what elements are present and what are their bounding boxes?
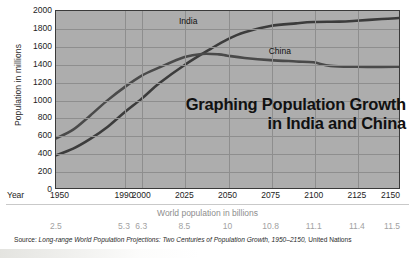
y-tick-label: 600	[22, 131, 52, 140]
horizontal-gridline	[56, 172, 399, 173]
y-axis-tick-labels: 2000180016001400120010008006004002000	[18, 0, 52, 200]
vertical-gridline	[142, 11, 143, 188]
x-tick-label: 2000	[132, 190, 151, 200]
source-publisher: United Nations	[308, 236, 351, 243]
y-tick-label: 200	[22, 167, 52, 176]
horizontal-gridline	[56, 136, 399, 137]
horizontal-gridline	[56, 83, 399, 84]
x-axis-title: Year	[7, 190, 24, 200]
world-population-tick-label: 10.8	[262, 221, 279, 231]
x-tick-label: 2125	[347, 190, 366, 200]
horizontal-gridline	[56, 65, 399, 66]
secondary-axis-title: World population in billions	[0, 208, 415, 218]
y-tick-label: 1000	[22, 96, 52, 105]
series-label-india: India	[179, 16, 197, 26]
y-tick-label: 1600	[22, 42, 52, 51]
y-tick-label: 1400	[22, 60, 52, 69]
vertical-gridline	[125, 11, 126, 188]
world-population-tick-label: 6.3	[135, 221, 147, 231]
source-note: Source: Long-range World Population Proj…	[14, 236, 409, 243]
world-population-tick-label: 11.5	[384, 221, 400, 231]
y-tick-label: 800	[22, 113, 52, 122]
x-tick-label: 2050	[218, 190, 237, 200]
chart-title-line2: in India and China	[156, 114, 406, 133]
world-population-tick-label: 11.4	[349, 221, 365, 231]
world-population-tick-label: 8.5	[178, 221, 190, 231]
page-edge-artifact	[0, 249, 200, 258]
divider-rule	[6, 204, 409, 205]
secondary-axis-tick-labels: 2.55.36.38.51010.811.111.411.5	[0, 221, 415, 233]
world-population-tick-label: 11.1	[306, 221, 322, 231]
chart-title: Graphing Population Growth in India and …	[156, 95, 406, 134]
source-title: Long-range World Population Projections:…	[39, 236, 307, 243]
x-tick-label: 2100	[304, 190, 323, 200]
horizontal-gridline	[56, 29, 399, 30]
y-tick-label: 400	[22, 149, 52, 158]
x-axis-tick-labels: Year 19501990200020252050207521002125215…	[0, 190, 415, 203]
y-tick-label: 2000	[22, 6, 52, 15]
x-tick-label: 2075	[261, 190, 280, 200]
y-tick-label: 1200	[22, 78, 52, 87]
world-population-tick-label: 5.3	[118, 221, 130, 231]
source-prefix: Source:	[14, 236, 37, 243]
horizontal-gridline	[56, 47, 399, 48]
y-tick-label: 1800	[22, 24, 52, 33]
x-tick-label: 1950	[50, 190, 69, 200]
world-population-tick-label: 10	[223, 221, 232, 231]
series-line-india	[56, 18, 399, 155]
horizontal-gridline	[56, 154, 399, 155]
x-tick-label: 2150	[381, 190, 400, 200]
x-tick-label: 2025	[175, 190, 194, 200]
world-population-tick-label: 2.5	[50, 221, 62, 231]
chart-title-line1: Graphing Population Growth	[156, 95, 406, 114]
series-label-china: China	[269, 46, 291, 56]
population-growth-chart: Population in millions 20001800160014001…	[0, 0, 415, 258]
x-tick-label: 1990	[115, 190, 134, 200]
